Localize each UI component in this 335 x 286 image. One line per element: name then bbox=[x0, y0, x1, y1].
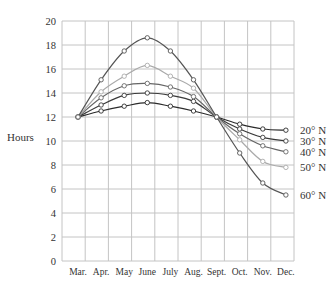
data-point bbox=[261, 181, 265, 185]
data-point bbox=[99, 109, 103, 113]
y-tick-label: 16 bbox=[46, 64, 57, 75]
data-point bbox=[99, 78, 103, 82]
series-label: 50° N bbox=[300, 161, 326, 173]
data-point bbox=[168, 85, 172, 89]
series-label: 40° N bbox=[300, 146, 326, 158]
series-line-2 bbox=[78, 83, 286, 151]
data-point bbox=[261, 127, 265, 131]
x-tick-label: Nov. bbox=[254, 267, 272, 277]
series-line-0 bbox=[78, 103, 286, 131]
series-label: 60° N bbox=[300, 189, 326, 201]
x-tick-label: May bbox=[115, 267, 133, 277]
data-point bbox=[284, 165, 288, 169]
data-point bbox=[284, 150, 288, 154]
x-axis: Mar.Apr.MayJuneJulyAug.Sept.Oct.Nov.Dec. bbox=[69, 267, 295, 277]
y-tick-label: 0 bbox=[51, 256, 56, 267]
data-point bbox=[99, 90, 103, 94]
data-point bbox=[99, 103, 103, 107]
y-tick-label: 4 bbox=[51, 208, 57, 219]
daylight-hours-chart: 02468101214161820 Mar.Apr.MayJuneJulyAug… bbox=[0, 0, 335, 286]
data-point bbox=[238, 132, 242, 136]
data-point bbox=[238, 122, 242, 126]
data-point bbox=[145, 100, 149, 104]
data-point bbox=[284, 193, 288, 197]
y-tick-label: 8 bbox=[51, 160, 56, 171]
x-tick-label: Aug. bbox=[184, 267, 203, 277]
data-point bbox=[191, 99, 195, 103]
data-point bbox=[168, 74, 172, 78]
x-tick-label: Apr. bbox=[93, 267, 110, 277]
data-point bbox=[122, 93, 126, 97]
x-tick-label: Oct. bbox=[232, 267, 248, 277]
data-point bbox=[191, 78, 195, 82]
data-point bbox=[238, 138, 242, 142]
x-tick-label: Sept. bbox=[207, 267, 226, 277]
series-labels: 20° N30° N40° N50° N60° N bbox=[300, 124, 326, 201]
y-tick-label: 6 bbox=[51, 184, 56, 195]
data-point bbox=[168, 93, 172, 97]
y-tick-label: 2 bbox=[51, 232, 56, 243]
x-tick-label: Mar. bbox=[69, 267, 87, 277]
x-tick-label: Dec. bbox=[277, 267, 295, 277]
data-point bbox=[122, 74, 126, 78]
data-point bbox=[284, 139, 288, 143]
data-point bbox=[191, 94, 195, 98]
x-tick-label: July bbox=[162, 267, 178, 277]
data-point bbox=[76, 115, 80, 119]
data-point bbox=[261, 159, 265, 163]
grid bbox=[62, 21, 294, 261]
y-tick-label: 20 bbox=[46, 16, 57, 27]
data-point bbox=[191, 86, 195, 90]
data-point bbox=[122, 104, 126, 108]
data-point bbox=[145, 36, 149, 40]
data-point bbox=[145, 63, 149, 67]
series-line-3 bbox=[78, 65, 286, 167]
y-tick-label: 18 bbox=[46, 40, 57, 51]
series-line-4 bbox=[78, 38, 286, 195]
data-point bbox=[99, 96, 103, 100]
data-point bbox=[168, 49, 172, 53]
data-point bbox=[238, 151, 242, 155]
y-tick-label: 10 bbox=[46, 136, 57, 147]
data-point bbox=[214, 115, 218, 119]
data-point bbox=[191, 109, 195, 113]
y-tick-label: 12 bbox=[46, 112, 57, 123]
y-axis: 02468101214161820 bbox=[46, 16, 57, 267]
data-point bbox=[145, 91, 149, 95]
data-point bbox=[261, 135, 265, 139]
data-point bbox=[261, 144, 265, 148]
series-lines bbox=[76, 36, 288, 198]
data-point bbox=[145, 81, 149, 85]
x-tick-label: June bbox=[139, 267, 156, 277]
data-point bbox=[284, 128, 288, 132]
data-point bbox=[168, 104, 172, 108]
data-point bbox=[122, 49, 126, 53]
y-axis-label: Hours bbox=[7, 131, 34, 143]
y-tick-label: 14 bbox=[46, 88, 57, 99]
data-point bbox=[238, 127, 242, 131]
data-point bbox=[122, 84, 126, 88]
